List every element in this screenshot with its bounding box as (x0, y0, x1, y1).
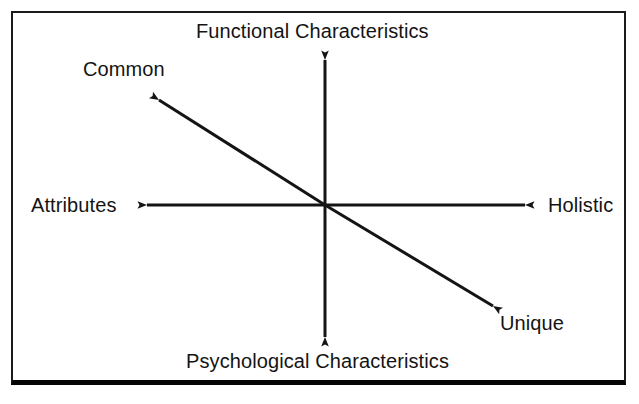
figure-root: Functional Characteristics Psychological… (0, 0, 639, 404)
axis-label-common: Common (83, 58, 165, 81)
axis-label-functional-characteristics: Functional Characteristics (196, 20, 429, 43)
axis-label-holistic: Holistic (548, 194, 613, 217)
axis-label-unique: Unique (500, 312, 564, 335)
axis-label-psychological-characteristics: Psychological Characteristics (186, 350, 449, 373)
axis-label-attributes: Attributes (31, 194, 116, 217)
caption-bleed-text (180, 391, 480, 403)
